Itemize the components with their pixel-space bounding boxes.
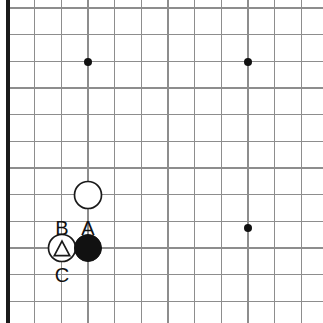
- star-point-upper-left: [84, 58, 92, 66]
- go-board-diagram: BAC: [0, 0, 323, 323]
- point-label-b: B: [55, 218, 68, 238]
- white-stone-upper[interactable]: [75, 182, 102, 209]
- point-label-a: A: [81, 218, 94, 238]
- point-label-c: C: [55, 265, 69, 285]
- star-point-upper-right: [244, 58, 252, 66]
- white-stone-disc: [75, 182, 102, 209]
- star-point-center-right: [244, 224, 252, 232]
- board-grid-canvas: [0, 0, 323, 323]
